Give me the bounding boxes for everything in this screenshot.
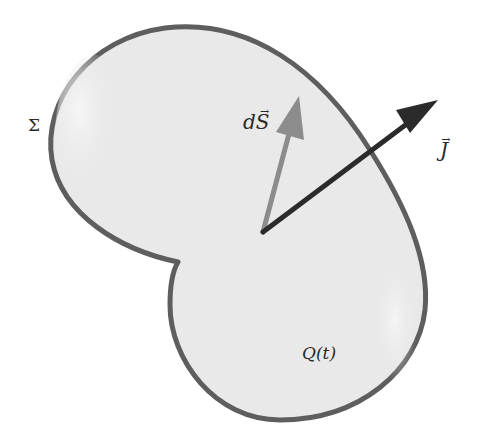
charge-Q-of-t: Q(t) (302, 343, 336, 363)
vector-J: J→ (440, 140, 448, 160)
highlight-left (55, 55, 135, 215)
surface-diagram (0, 0, 482, 438)
differential-d: d (243, 110, 256, 134)
enclosed-charge-label: Q(t) (302, 345, 336, 362)
highlight-right (373, 260, 417, 380)
current-density-label: J→ (440, 140, 448, 160)
sigma-symbol: Σ (28, 115, 40, 135)
surface-label: Σ (28, 117, 40, 134)
area-element-label: dS→ (243, 112, 270, 132)
vector-arrow-icon: → (260, 106, 269, 117)
vector-arrow-icon: → (441, 134, 450, 145)
vector-S: S→ (256, 112, 270, 132)
